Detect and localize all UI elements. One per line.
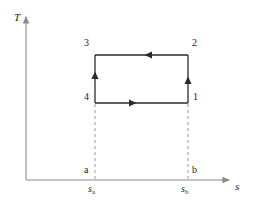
process-direction-arrows: [91, 51, 191, 106]
arrowhead-4-to-1: [129, 99, 137, 106]
axis-mark-b: b: [192, 165, 197, 175]
arrowhead-1-to-2: [184, 77, 191, 85]
tick-label-sb-sub: b: [185, 188, 189, 196]
tick-label-sa: sa: [88, 184, 95, 196]
ts-diagram-figure: T s 1 2 3 4 a b sa sb: [0, 0, 262, 208]
tick-label-sa-sub: a: [92, 188, 95, 196]
state-label-3: 3: [84, 38, 89, 48]
axis-mark-a: a: [84, 165, 88, 175]
y-axis-label: T: [14, 12, 20, 23]
state-label-1: 1: [193, 92, 198, 102]
arrowhead-2-to-3: [145, 51, 153, 58]
cycle-path: [95, 55, 188, 103]
diagram-canvas: [0, 0, 262, 208]
tick-label-sb: sb: [181, 184, 188, 196]
state-label-2: 2: [192, 38, 197, 48]
x-axis-label: s: [235, 181, 239, 192]
arrowhead-3-to-4: [91, 72, 98, 80]
state-label-4: 4: [84, 92, 89, 102]
